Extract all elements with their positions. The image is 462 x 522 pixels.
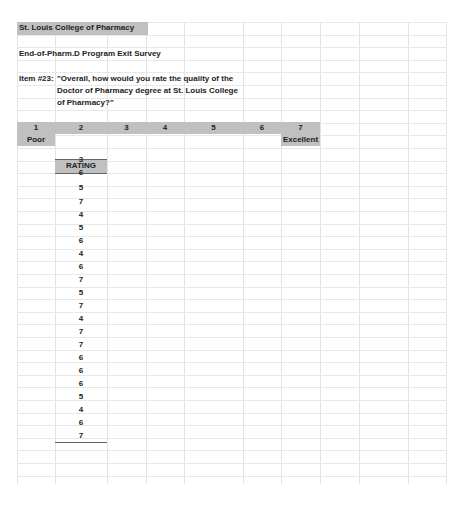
rating-cell[interactable]: 6 bbox=[55, 378, 107, 390]
item-question-line-3: of Pharmacy?" bbox=[57, 97, 114, 109]
college-title-cell[interactable]: St. Louis College of Pharmacy bbox=[17, 22, 148, 35]
scale-5[interactable]: 5 bbox=[184, 122, 243, 134]
rating-cell[interactable]: 4 bbox=[55, 404, 107, 416]
rating-cell[interactable]: 5 bbox=[55, 391, 107, 403]
rating-cell[interactable]: 5 bbox=[55, 182, 107, 194]
rating-cell[interactable]: 6 bbox=[55, 365, 107, 377]
rating-cell[interactable]: 6 bbox=[55, 235, 107, 247]
scale-4[interactable]: 4 bbox=[146, 122, 184, 134]
rating-cell[interactable]: 3 bbox=[55, 154, 107, 166]
rating-cell[interactable]: 7 bbox=[55, 326, 107, 338]
rating-cell[interactable]: 5 bbox=[55, 287, 107, 299]
rating-cell[interactable]: 7 bbox=[55, 300, 107, 312]
item-question-line-1: "Overall, how would you rate the quality… bbox=[57, 73, 233, 85]
scale-high-label[interactable]: Excellent bbox=[281, 134, 320, 146]
rating-cell[interactable]: 6 bbox=[55, 261, 107, 273]
rating-cell[interactable]: 6 bbox=[55, 167, 107, 179]
rating-cell[interactable]: 4 bbox=[55, 209, 107, 221]
rating-cell[interactable]: 7 bbox=[55, 430, 107, 443]
rating-cell[interactable]: 7 bbox=[55, 274, 107, 286]
rating-cell[interactable]: 4 bbox=[55, 313, 107, 325]
rating-cell[interactable]: 6 bbox=[55, 352, 107, 364]
scale-1[interactable]: 1 bbox=[17, 122, 55, 134]
scale-2[interactable]: 2 bbox=[55, 122, 107, 134]
spreadsheet-grid[interactable]: St. Louis College of Pharmacy End-of-Pha… bbox=[17, 22, 447, 484]
rating-cell[interactable]: 4 bbox=[55, 248, 107, 260]
scale-low-label[interactable]: Poor bbox=[17, 134, 55, 146]
scale-3[interactable]: 3 bbox=[107, 122, 146, 134]
rating-cell[interactable]: 7 bbox=[55, 196, 107, 208]
survey-subtitle[interactable]: End-of-Pharm.D Program Exit Survey bbox=[19, 48, 161, 60]
item-question-line-2: Doctor of Pharmacy degree at St. Louis C… bbox=[57, 85, 238, 97]
scale-6[interactable]: 6 bbox=[243, 122, 281, 134]
rating-cell[interactable]: 7 bbox=[55, 339, 107, 351]
item-label[interactable]: Item #23: bbox=[19, 73, 54, 85]
rating-cell[interactable]: 6 bbox=[55, 417, 107, 429]
scale-7[interactable]: 7 bbox=[281, 122, 320, 134]
rating-cell[interactable]: 5 bbox=[55, 222, 107, 234]
